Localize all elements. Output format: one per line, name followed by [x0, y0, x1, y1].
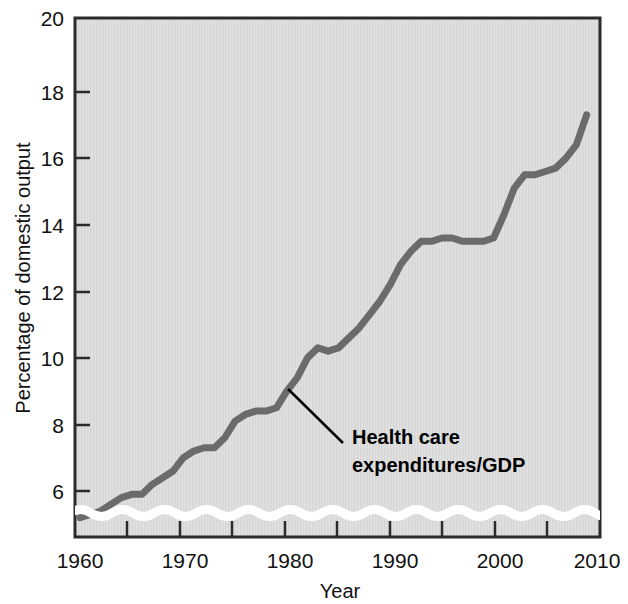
y-axis-title: Percentage of domestic output [12, 142, 34, 414]
xtick-label: 2010 [574, 549, 621, 572]
xtick-label: 1970 [162, 549, 209, 572]
axis-break-wave [70, 510, 616, 517]
y-axis-tick-labels: 20 18 16 14 12 10 8 6 [41, 7, 65, 503]
xtick-label: 1960 [57, 549, 104, 572]
ytick-label: 14 [41, 214, 65, 237]
chart-canvas: 20 18 16 14 12 10 8 6 1960 1970 1980 19 [0, 0, 628, 604]
xtick-label: 1990 [372, 549, 419, 572]
ytick-label: 16 [41, 147, 64, 170]
ytick-label: 8 [52, 414, 64, 437]
chart-figure: 20 18 16 14 12 10 8 6 1960 1970 1980 19 [0, 0, 628, 604]
xtick-label: 2000 [477, 549, 524, 572]
annotation-label-line1: Health care [352, 426, 460, 448]
x-axis-title: Year [320, 580, 361, 602]
ytick-label: 6 [52, 480, 64, 503]
annotation-label-line2: expenditures/GDP [352, 454, 525, 476]
xtick-label: 1980 [267, 549, 314, 572]
ytick-label: 12 [41, 281, 64, 304]
x-axis-tick-labels: 1960 1970 1980 1990 2000 2010 [57, 549, 621, 572]
ytick-label: 20 [41, 7, 64, 30]
ytick-label: 10 [41, 347, 64, 370]
ytick-label: 18 [41, 81, 64, 104]
